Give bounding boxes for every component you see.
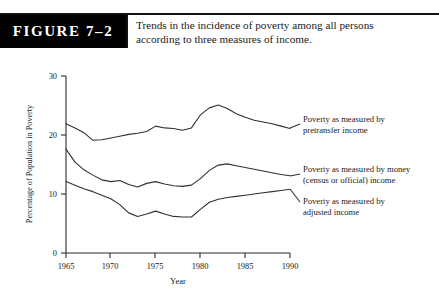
legend-label-money-line2: (census or official) income bbox=[303, 175, 395, 185]
figure-number-label: FIGURE 7–2 bbox=[13, 23, 114, 40]
legend-label-pretransfer-line1: Poverty as measured by bbox=[303, 114, 386, 124]
figure-number-badge: FIGURE 7–2 bbox=[0, 15, 126, 48]
leader-line-pretransfer bbox=[290, 124, 300, 128]
leader-line-adjusted bbox=[290, 189, 300, 202]
x-tick-label-1970: 1970 bbox=[102, 262, 119, 271]
line-chart: 0 10 20 30 1965 1970 1975 1980 1985 19 bbox=[0, 52, 439, 292]
legend-label-money-line1: Poverty as measured by money bbox=[303, 164, 411, 174]
x-axis-tick-labels: 1965 1970 1975 1980 1985 1990 bbox=[58, 262, 299, 271]
series-line-adjusted bbox=[66, 182, 290, 217]
y-tick-label-10: 10 bbox=[49, 190, 57, 199]
y-tick-label-30: 30 bbox=[49, 72, 57, 81]
figure-caption-text: Trends in the incidence of poverty among… bbox=[128, 18, 378, 46]
y-axis-tick-labels: 0 10 20 30 bbox=[49, 72, 57, 258]
leader-line-money bbox=[290, 174, 300, 176]
y-axis-ticks bbox=[61, 76, 66, 253]
x-axis-title: Year bbox=[170, 276, 186, 286]
series-line-pretransfer bbox=[66, 105, 290, 140]
x-tick-label-1975: 1975 bbox=[147, 262, 164, 271]
x-tick-label-1990: 1990 bbox=[282, 262, 299, 271]
series-line-money bbox=[66, 149, 290, 187]
x-axis-ticks bbox=[66, 253, 290, 258]
figure-caption: Trends in the incidence of poverty among… bbox=[126, 15, 439, 48]
caption-line-2: according to three measures of income. bbox=[136, 33, 312, 45]
legend-item-pretransfer: Poverty as measured by pretransfer incom… bbox=[303, 114, 386, 135]
legend-label-adjusted-line1: Poverty as measured by bbox=[303, 196, 386, 206]
legend-item-money: Poverty as measured by money (census or … bbox=[303, 164, 411, 185]
caption-line-1: Trends in the incidence of poverty among… bbox=[136, 19, 374, 31]
y-tick-label-20: 20 bbox=[49, 131, 57, 140]
y-axis-title: Percentage of Population in Poverty bbox=[25, 104, 34, 223]
y-tick-label-0: 0 bbox=[53, 249, 57, 258]
legend-label-adjusted-line2: adjusted income bbox=[303, 207, 359, 217]
legend-label-pretransfer-line2: pretransfer income bbox=[303, 125, 368, 135]
legend-item-adjusted: Poverty as measured by adjusted income bbox=[303, 196, 386, 217]
x-tick-label-1985: 1985 bbox=[237, 262, 254, 271]
figure-root: FIGURE 7–2 Trends in the incidence of po… bbox=[0, 0, 439, 292]
x-tick-label-1980: 1980 bbox=[192, 262, 209, 271]
x-tick-label-1965: 1965 bbox=[58, 262, 75, 271]
chart-plot-area: 0 10 20 30 1965 1970 1975 1980 1985 19 bbox=[0, 52, 439, 292]
